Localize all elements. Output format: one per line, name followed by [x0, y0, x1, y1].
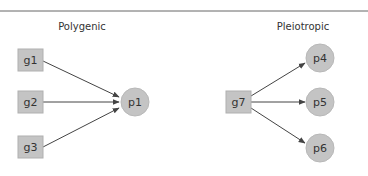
svg-text:p5: p5: [313, 96, 327, 109]
phenotype-node-p1: p1: [121, 88, 149, 116]
svg-text:g3: g3: [24, 141, 38, 154]
polygenic-panel: Polygenic g1 g2 g3 p1: [18, 21, 149, 158]
svg-text:g2: g2: [24, 96, 38, 109]
polygenic-title: Polygenic: [58, 21, 106, 32]
svg-text:p1: p1: [128, 96, 142, 109]
svg-text:g7: g7: [232, 96, 246, 109]
svg-text:p6: p6: [313, 142, 327, 155]
phenotype-node-p6: p6: [306, 134, 334, 162]
phenotype-node-p4: p4: [306, 44, 334, 72]
gene-node-g1: g1: [18, 49, 43, 71]
gene-node-g2: g2: [18, 91, 43, 113]
edge-g7-p6: [251, 108, 305, 143]
edge-g7-p4: [251, 63, 305, 96]
edge-g3-p1: [43, 108, 119, 147]
gene-phenotype-diagram: Polygenic g1 g2 g3 p1 Pleiotropic g7: [0, 0, 368, 176]
svg-text:p4: p4: [313, 52, 327, 65]
pleiotropic-title: Pleiotropic: [277, 21, 329, 32]
gene-node-g7: g7: [226, 91, 251, 113]
edge-g1-p1: [43, 61, 119, 97]
gene-node-g3: g3: [18, 136, 43, 158]
svg-text:g1: g1: [24, 54, 38, 67]
pleiotropic-panel: Pleiotropic g7 p4 p5 p6: [226, 21, 334, 162]
phenotype-node-p5: p5: [306, 88, 334, 116]
